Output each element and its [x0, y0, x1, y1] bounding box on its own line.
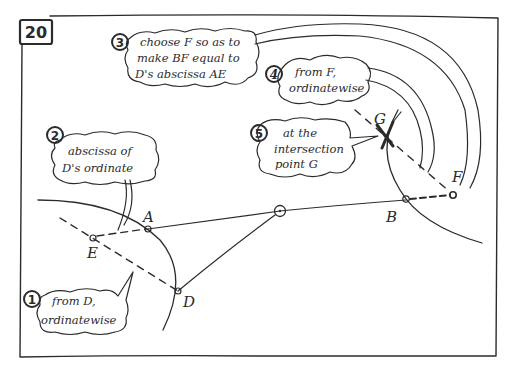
- ellipse-arc-right: [387, 110, 482, 243]
- callout-step-1: 1 from D, ordinatewise: [24, 272, 133, 335]
- step-3-line-2: make BF equal to: [137, 51, 240, 65]
- ellipse-arc-left: [38, 200, 176, 330]
- step-5-number: 5: [255, 127, 263, 141]
- step-3-line-1: choose F so as to: [140, 35, 240, 49]
- callout-2-cloud: [52, 132, 159, 185]
- callout-4-cloud: [278, 55, 371, 104]
- step-4-number: 4: [270, 68, 278, 82]
- step-3-line-3: D's abscissa AE: [134, 67, 227, 81]
- step-4-line-2: ordinatewise: [289, 81, 365, 95]
- step-2-number: 2: [51, 129, 59, 143]
- step-3-number: 3: [116, 36, 124, 50]
- step-2-line-1: abscissa of: [68, 144, 133, 158]
- diagram-canvas: 20 E A D B F G 3 choose F so as to make …: [0, 0, 514, 378]
- callout-step-2: 2 abscissa of D's ordinate: [47, 127, 159, 230]
- dashed-G-F: [355, 110, 450, 192]
- step-1-number: 1: [28, 293, 36, 307]
- step-1-line-1: from D,: [51, 294, 96, 308]
- step-5-line-2: intersection: [274, 142, 344, 156]
- panel-number: 20: [25, 23, 47, 42]
- step-4-line-1: from F,: [294, 65, 336, 79]
- callout-2-tail: [118, 180, 132, 230]
- line-O-D: [178, 215, 275, 291]
- dashed-E-A: [97, 229, 146, 236]
- step-5-line-1: at the: [283, 126, 317, 140]
- step-2-line-2: D's ordinate: [61, 161, 133, 175]
- label-D: D: [182, 293, 195, 311]
- label-A: A: [141, 208, 154, 226]
- label-G: G: [374, 110, 386, 128]
- step-5-line-3: point G: [275, 157, 318, 171]
- label-B: B: [385, 208, 397, 226]
- dashed-B-F: [410, 195, 450, 199]
- step-1-line-2: ordinatewise: [41, 313, 117, 327]
- label-E: E: [86, 244, 98, 262]
- panel-number-badge: 20: [20, 20, 52, 44]
- callout-step-5: 5 at the intersection point G: [251, 118, 378, 177]
